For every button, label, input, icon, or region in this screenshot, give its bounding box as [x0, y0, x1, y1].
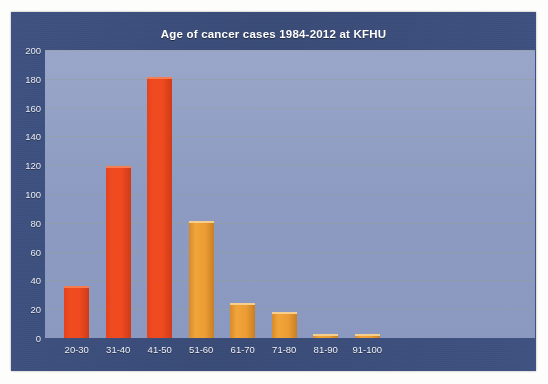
x-axis-tick-label: 71-80: [272, 344, 296, 355]
bar-51-60: [189, 221, 214, 338]
y-axis-tick-label: 140: [11, 131, 41, 142]
x-axis-tick-label: 61-70: [231, 344, 255, 355]
y-axis-tick-label: 180: [11, 73, 41, 84]
y-axis-tick-label: 100: [11, 189, 41, 200]
bar-series: [45, 50, 535, 338]
page-background: Age of cancer cases 1984-2012 at KFHU 20…: [0, 0, 548, 384]
chart-title: Age of cancer cases 1984-2012 at KFHU: [11, 28, 536, 40]
y-axis-tick-label: 40: [11, 275, 41, 286]
x-axis: 20-3031-4041-5051-6061-7071-8081-9091-10…: [45, 338, 535, 364]
bar-31-40: [106, 166, 131, 338]
x-axis-tick-label: 41-50: [148, 344, 172, 355]
x-axis-tick-label: 81-90: [314, 344, 338, 355]
y-axis-tick-label: 200: [11, 45, 41, 56]
x-axis-tick-label: 20-30: [65, 344, 89, 355]
y-axis-tick-label: 120: [11, 160, 41, 171]
bar-61-70: [230, 303, 255, 338]
y-axis-tick-label: 0: [11, 333, 41, 344]
x-axis-tick-label: 31-40: [106, 344, 130, 355]
bar-71-80: [272, 312, 297, 338]
bar-20-30: [64, 286, 89, 338]
y-axis-tick-label: 80: [11, 217, 41, 228]
x-axis-tick-label: 91-100: [352, 344, 382, 355]
y-axis-tick-label: 160: [11, 102, 41, 113]
y-axis: 200180160140120100806040200: [11, 50, 41, 338]
chart-figure: Age of cancer cases 1984-2012 at KFHU 20…: [11, 12, 536, 371]
x-axis-tick-label: 51-60: [189, 344, 213, 355]
y-axis-tick-label: 60: [11, 246, 41, 257]
y-axis-tick-label: 20: [11, 304, 41, 315]
bar-41-50: [147, 77, 172, 338]
